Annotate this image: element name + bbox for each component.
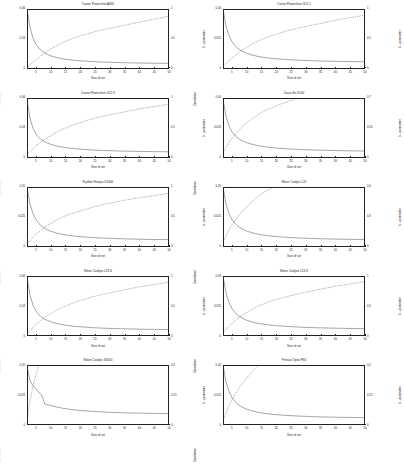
series-line (27, 193, 169, 244)
x-axis-label: Size of set (223, 165, 365, 169)
series-line (223, 99, 365, 151)
x-axis-label: Size of set (223, 254, 365, 258)
x-axis-tick: 25 (90, 71, 100, 74)
x-axis-tick: 5 (227, 71, 237, 74)
x-axis-tick: 15 (60, 427, 70, 430)
x-axis-tick: 20 (75, 249, 85, 252)
x-axis-tick: 45 (149, 249, 159, 252)
x-axis-tick: 5 (227, 427, 237, 430)
x-axis-tick: 20 (75, 160, 85, 163)
panel-title: Nikon Coolpix L23.6 (0, 270, 196, 273)
x-axis-tick: 25 (286, 338, 296, 341)
y-axis-label-right-text: b - parameter (397, 98, 404, 158)
y-axis-tick-right: 1 (367, 7, 369, 10)
x-axis-tick: 35 (316, 427, 326, 430)
plot-curves (27, 187, 169, 247)
plot-curves (223, 9, 365, 69)
x-axis-tick: 20 (271, 427, 281, 430)
x-axis-tick: 30 (105, 338, 115, 341)
y-axis-tick-right: 0.6 (367, 185, 371, 188)
x-axis-tick: 45 (345, 249, 355, 252)
y-axis-tick-right: 0 (367, 335, 369, 338)
y-axis-tick-left: 0.025 (214, 37, 221, 40)
y-axis-tick-left: 0 (219, 156, 221, 159)
y-axis-tick-left: 0.05 (20, 185, 25, 188)
x-axis-tick: 45 (345, 160, 355, 163)
series-line (223, 187, 365, 240)
x-axis-tick: 10 (46, 427, 56, 430)
x-axis-tick: 20 (75, 71, 85, 74)
x-axis-tick: 35 (316, 160, 326, 163)
x-axis-tick: 50 (360, 338, 370, 341)
x-axis-tick: 40 (134, 160, 144, 163)
x-axis-tick: 50 (164, 71, 174, 74)
series-line (27, 365, 169, 421)
x-axis-label: Size of set (223, 433, 365, 437)
series-line (223, 365, 365, 418)
x-axis-tick: 25 (90, 427, 100, 430)
x-axis-tick: 50 (164, 249, 174, 252)
x-axis-tick: 40 (134, 427, 144, 430)
x-axis-tick: 30 (301, 160, 311, 163)
plot-curves (223, 365, 365, 425)
x-axis-tick: 45 (149, 427, 159, 430)
y-axis-tick-right: 0 (171, 424, 173, 427)
chart-panel: Nikon Coolpix L23.800.0250.0500.51510152… (196, 268, 392, 357)
y-axis-tick-right: 1 (171, 7, 173, 10)
x-axis-tick: 45 (149, 160, 159, 163)
y-axis-tick-left: 0.06 (20, 275, 25, 278)
x-axis-tick: 35 (316, 338, 326, 341)
y-axis-tick-left: 0.05 (216, 7, 221, 10)
series-line (223, 9, 365, 62)
panel-title: Nikon Coolpix S3000 (0, 359, 196, 362)
y-axis-label-left: Correlation (192, 276, 199, 336)
y-axis-tick-right: 1 (171, 185, 173, 188)
x-axis-tick: 20 (75, 338, 85, 341)
x-axis-tick: 35 (120, 160, 130, 163)
x-axis-label: Size of set (223, 344, 365, 348)
x-axis-tick: 40 (330, 249, 340, 252)
plot-curves (27, 365, 169, 425)
y-axis-tick-right: 1 (171, 96, 173, 99)
x-axis-tick: 15 (256, 71, 266, 74)
x-axis-tick: 15 (256, 249, 266, 252)
x-axis-tick: 10 (242, 249, 252, 252)
y-axis-tick-left: 0.06 (20, 7, 25, 10)
x-axis-label: Size of set (27, 76, 169, 80)
panel-title: Canon Powershot A495 (0, 3, 196, 6)
y-axis-tick-right: 0.3 (171, 364, 175, 367)
x-axis-tick: 45 (149, 338, 159, 341)
x-axis-tick: 35 (120, 427, 130, 430)
y-axis-tick-left: 0 (219, 67, 221, 70)
y-axis-tick-right: 0.7 (367, 96, 371, 99)
x-axis-tick: 45 (345, 427, 355, 430)
y-axis-tick-right: 0 (171, 245, 173, 248)
chart-panel: Casio Ex-S20000.0250.0500.350.7510152025… (196, 89, 392, 178)
x-axis-tick: 30 (105, 160, 115, 163)
x-axis-tick: 50 (164, 160, 174, 163)
y-axis-tick-right: 0 (171, 156, 173, 159)
x-axis-tick: 10 (242, 160, 252, 163)
y-axis-tick-left: 0.03 (20, 126, 25, 129)
panel-title: Canon Powershot G12.1 (196, 3, 392, 6)
y-axis-label-left: Correlation (0, 365, 3, 425)
y-axis-label-left: Correlation (192, 98, 199, 158)
chart-panel: Nikon Coolpix S300000.0250.0500.150.3510… (0, 357, 196, 446)
y-axis-tick-right: 1 (367, 275, 369, 278)
y-axis-label-left: Correlation (0, 98, 3, 158)
x-axis-tick: 35 (120, 71, 130, 74)
y-axis-tick-right: 0 (367, 156, 369, 159)
series-line (223, 365, 365, 420)
y-axis-tick-left: 0.025 (214, 126, 221, 129)
x-axis-tick: 30 (105, 249, 115, 252)
plot-curves (223, 98, 365, 158)
y-axis-label-right-text: b - parameter (397, 276, 404, 336)
x-axis-tick: 10 (46, 249, 56, 252)
series-line (223, 98, 365, 153)
y-axis-tick-right: 0.5 (367, 37, 371, 40)
series-line (27, 366, 169, 413)
y-axis-tick-right: 0.35 (367, 126, 372, 129)
x-axis-tick: 40 (330, 160, 340, 163)
y-axis-tick-left: 0.05 (216, 364, 221, 367)
